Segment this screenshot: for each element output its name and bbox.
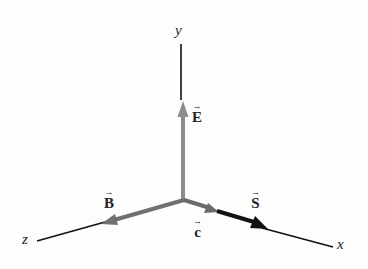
axes-and-vectors <box>0 0 368 269</box>
c-vector-label: → c <box>193 218 202 240</box>
x-axis-label: x <box>337 236 344 253</box>
b-vector-label: → B <box>104 189 114 211</box>
em-wave-vector-diagram: y z x → E → B → c → S <box>0 0 368 269</box>
c-vector <box>184 200 219 213</box>
s-vector <box>217 211 268 229</box>
e-vector <box>178 101 189 200</box>
z-axis <box>37 222 105 241</box>
y-axis-label: y <box>175 22 182 39</box>
z-axis-label: z <box>22 231 28 248</box>
s-vector-label: → S <box>251 189 260 211</box>
x-axis <box>262 228 333 247</box>
e-vector-label: → E <box>192 103 202 125</box>
